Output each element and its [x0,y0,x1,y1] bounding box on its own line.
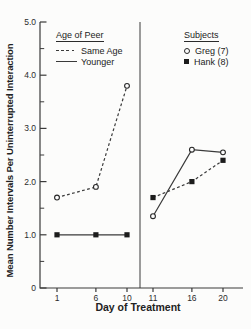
svg-text:5.0: 5.0 [24,17,36,27]
figure: 01.02.03.04.05.01610111620 Mean Number I… [0,0,251,329]
svg-text:4.0: 4.0 [24,70,36,80]
open-circle-marker [184,48,190,54]
svg-text:1.0: 1.0 [24,230,36,240]
legend-item-greg: Greg (7) [184,45,229,56]
legend-age-of-peer-title: Age of Peer [56,30,104,42]
legend-item-label: Same Age [81,46,123,56]
legend-item-hank: Hank (8) [184,56,229,67]
dashed-line-sample [56,50,77,51]
svg-text:2.0: 2.0 [24,177,36,187]
svg-text:3.0: 3.0 [24,123,36,133]
legend-item-label: Younger [81,57,114,67]
legend-subjects-title: Subjects [184,30,219,42]
solid-line-sample [56,61,77,62]
legend-age-of-peer: Age of Peer Same Age Younger [56,30,123,67]
legend-item-label: Greg (7) [195,46,229,56]
legend-subjects: Subjects Greg (7) Hank (8) [184,30,229,67]
y-axis-title: Mean Number Intervals Per Uninterrupted … [4,21,15,301]
svg-text:0: 0 [31,283,36,293]
x-axis-title: Day of Treatment [40,301,236,313]
legend-item-same-age: Same Age [56,45,123,56]
legend-item-label: Hank (8) [194,57,229,67]
legend-item-younger: Younger [56,56,123,67]
filled-square-marker [184,59,189,64]
